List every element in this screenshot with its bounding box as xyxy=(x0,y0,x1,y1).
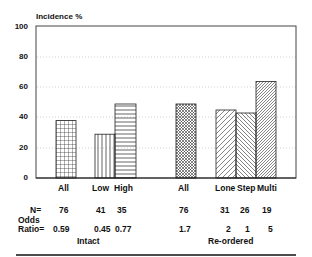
or-intact-all: 0.59 xyxy=(53,224,70,234)
cat-intact-high: High xyxy=(114,183,133,193)
cat-reordered-lone: Lone xyxy=(215,183,235,193)
or-intact-low: 0.45 xyxy=(94,224,111,234)
bar-reordered-multi xyxy=(256,81,276,178)
n-intact-all: 76 xyxy=(59,205,68,215)
n-intact-low: 41 xyxy=(96,205,105,215)
row-label-ratio: Ratio= xyxy=(18,224,44,234)
chart-canvas xyxy=(0,0,312,257)
cat-intact-all: All xyxy=(58,183,69,193)
cat-reordered-multi: Multi xyxy=(257,183,277,193)
n-reordered-lone: 31 xyxy=(220,205,229,215)
or-reordered-multi: 5 xyxy=(268,224,273,234)
bar-intact-low xyxy=(95,134,115,178)
n-reordered-multi: 19 xyxy=(262,205,271,215)
group-label-reordered: Re-ordered xyxy=(208,236,253,246)
cat-intact-low: Low xyxy=(92,183,109,193)
or-intact-high: 0.77 xyxy=(115,224,132,234)
n-intact-high: 35 xyxy=(117,205,126,215)
bar-reordered-all xyxy=(176,104,196,178)
cat-reordered-all: All xyxy=(178,183,189,193)
n-reordered-step: 26 xyxy=(240,205,249,215)
group-label-intact: Intact xyxy=(77,236,100,246)
bar-reordered-step xyxy=(236,113,256,178)
bar-intact-high xyxy=(115,104,136,178)
bar-reordered-lone xyxy=(216,110,236,178)
cat-reordered-step: Step xyxy=(237,183,255,193)
bar-intact-all xyxy=(56,121,76,178)
or-reordered-lone: 2 xyxy=(226,224,231,234)
or-reordered-step: 1 xyxy=(245,224,250,234)
n-reordered-all: 76 xyxy=(179,205,188,215)
row-label-n: N= xyxy=(30,205,41,215)
or-reordered-all: 1.7 xyxy=(179,224,191,234)
